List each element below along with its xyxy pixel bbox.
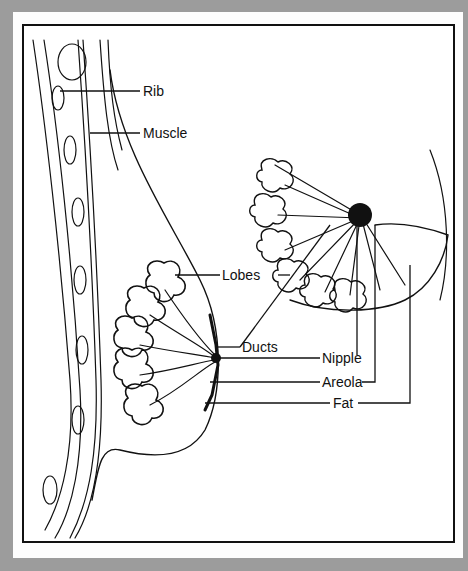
ducts-side [140,290,215,405]
label-areola: Areola [322,374,363,390]
breast-outline-front [430,150,447,300]
label-fat: Fat [333,395,353,411]
nipple-front [348,203,372,227]
rib-bone [58,44,86,80]
label-rib: Rib [143,83,164,99]
lobes-front [250,159,367,312]
label-lobes: Lobes [222,267,260,283]
chest-wall-outer [33,40,71,530]
lobes-side [114,261,185,425]
breast-lower-curve [290,224,448,310]
anatomy-illustration: Rib Muscle Lobes Ducts Nipple Areola Fat [0,0,468,571]
label-nipple: Nipple [322,350,362,366]
muscle-layer [70,40,96,538]
label-ducts: Ducts [242,339,278,355]
breast-divider-line [275,165,360,215]
label-muscle: Muscle [143,125,188,141]
